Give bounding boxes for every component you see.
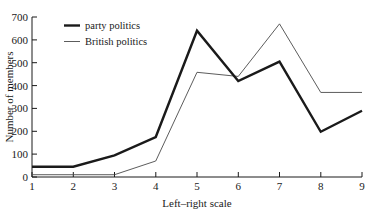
chart-figure: 0 100 200 300 400 500 600 700 1 2 3 4 — [0, 0, 372, 211]
legend-label-party-politics: party politics — [85, 20, 140, 31]
series-line-british-politics — [32, 24, 362, 175]
y-axis-title: Number of members — [3, 51, 15, 142]
x-tick-label-1: 1 — [29, 180, 35, 192]
x-axis-title: Left–right scale — [162, 197, 231, 209]
y-tick-label-100: 100 — [12, 148, 29, 160]
x-tick-label-6: 6 — [236, 180, 242, 192]
x-tick-label-8: 8 — [318, 180, 324, 192]
series-line-party-politics — [32, 31, 362, 167]
x-tick-label-7: 7 — [277, 180, 283, 192]
x-tick-label-4: 4 — [153, 180, 159, 192]
line-chart-canvas: 0 100 200 300 400 500 600 700 1 2 3 4 — [0, 0, 372, 211]
x-tick-label-9: 9 — [359, 180, 365, 192]
legend-label-british-politics: British politics — [85, 36, 147, 47]
axis-lines — [32, 17, 362, 177]
x-tick-label-3: 3 — [112, 180, 118, 192]
y-axis-ticks — [32, 17, 37, 177]
y-tick-label-700: 700 — [12, 11, 29, 23]
y-tick-label-0: 0 — [23, 171, 29, 183]
x-tick-label-2: 2 — [71, 180, 77, 192]
chart-legend: party politics British politics — [64, 20, 147, 47]
y-tick-label-600: 600 — [12, 34, 29, 46]
x-tick-label-5: 5 — [194, 180, 200, 192]
x-axis-tick-labels: 1 2 3 4 5 6 7 8 9 — [29, 180, 365, 192]
